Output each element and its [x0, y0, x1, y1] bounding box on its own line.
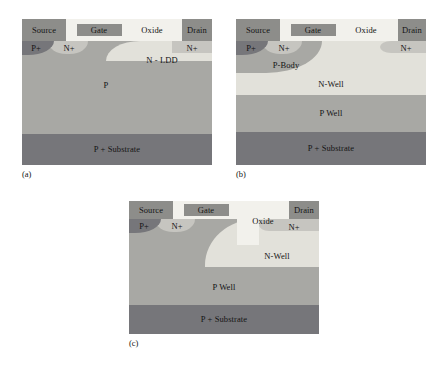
label-source-a: Source [32, 26, 56, 35]
label-p-body-b: P-Body [273, 61, 300, 70]
panel-c: Source Gate Oxide Drain P+ N+ N+ N-Well … [129, 201, 319, 334]
label-p-well-c: P Well [213, 283, 236, 292]
caption-panel-a: (a) [22, 170, 31, 179]
label-oxide-b: Oxide [355, 26, 376, 35]
label-n-plus-source-b: N+ [278, 44, 289, 53]
label-n-well-c: N-Well [264, 252, 289, 261]
label-n-ldd-a: N - LDD [146, 56, 177, 65]
label-p-substrate-a: P + Substrate [94, 145, 140, 154]
label-gate-c: Gate [198, 206, 214, 215]
label-oxide-c: Oxide [252, 217, 273, 226]
label-drain-b: Drain [402, 26, 422, 35]
label-oxide-a: Oxide [141, 26, 162, 35]
label-source-b: Source [246, 26, 270, 35]
label-n-plus-drain-b: N+ [400, 44, 411, 53]
label-n-well-b: N-Well [318, 80, 343, 89]
caption-panel-b: (b) [236, 170, 246, 179]
label-p-plus-a: P+ [31, 44, 41, 53]
panel-b: Source Gate Oxide Drain P+ N+ N+ P-Body … [236, 19, 426, 165]
label-source-c: Source [139, 206, 163, 215]
label-n-plus-source-a: N+ [63, 44, 74, 53]
panel-a: Source Gate Oxide Drain P+ N+ N+ N - LDD… [22, 19, 212, 165]
label-p-substrate-b: P + Substrate [308, 144, 354, 153]
label-n-plus-drain-c: N+ [288, 223, 299, 232]
label-p-a: P [104, 81, 109, 90]
label-drain-a: Drain [187, 26, 207, 35]
label-drain-c: Drain [294, 206, 314, 215]
label-gate-b: Gate [305, 26, 321, 35]
label-p-well-b: P Well [320, 109, 343, 118]
label-n-plus-source-c: N+ [171, 222, 182, 231]
label-gate-a: Gate [91, 26, 107, 35]
label-p-substrate-c: P + Substrate [201, 315, 247, 324]
label-p-plus-b: P+ [246, 44, 256, 53]
label-n-plus-drain-a: N+ [186, 44, 197, 53]
caption-panel-c: (c) [129, 339, 138, 348]
label-p-plus-c: P+ [139, 222, 149, 231]
